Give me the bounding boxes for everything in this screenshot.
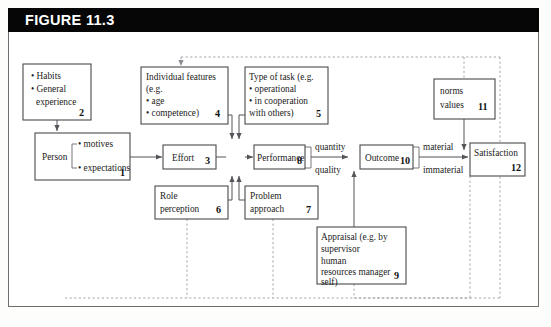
habits-line-3: experience (36, 97, 76, 107)
habits-line-1: • Habits (31, 71, 61, 81)
edge-individual-features-down (228, 115, 232, 139)
performance-number: 8 (297, 155, 302, 166)
person-number: 1 (120, 167, 125, 178)
individual-features-line-3: • age (146, 96, 164, 106)
individual-features-line-4: • competence) (146, 108, 199, 119)
node-problem-approach[interactable]: Problem approach 7 (245, 186, 318, 219)
appraisal-line-5: self) (321, 277, 338, 288)
node-satisfaction[interactable]: Satisfaction 12 (470, 143, 525, 176)
edge-role-perception-up (228, 176, 232, 200)
problem-approach-line-1: Problem (250, 191, 282, 201)
type-of-task-line-2: • operational (249, 84, 297, 94)
appraisal-line-2: supervisor (321, 244, 361, 254)
effort-number: 3 (205, 155, 210, 166)
satisfaction-number: 12 (511, 162, 521, 173)
norms-values-line-1: norms (440, 86, 464, 96)
habits-number: 2 (79, 107, 84, 118)
person-bullet-motives: • motives (78, 139, 113, 149)
label-material: material (423, 142, 454, 152)
node-outcome[interactable]: Outcome 10 (360, 145, 413, 169)
satisfaction-title: Satisfaction (474, 148, 518, 158)
norms-values-line-2: values (440, 100, 464, 110)
bracket-quantity-quality (305, 147, 311, 168)
node-role-perception[interactable]: Role perception 6 (155, 186, 228, 219)
edge-type-of-task-down (239, 115, 245, 139)
outcome-number: 10 (400, 155, 410, 166)
label-immaterial: immaterial (423, 165, 464, 175)
type-of-task-line-1: Type of task (e.g. (249, 72, 314, 83)
individual-features-line-1: Individual features (146, 72, 216, 82)
bracket-material-immaterial (413, 147, 419, 168)
appraisal-number: 9 (394, 270, 399, 281)
appraisal-line-3: human (321, 256, 347, 266)
node-norms-values-box[interactable] (434, 79, 495, 119)
node-person[interactable]: Person • motives • expectations 1 (35, 133, 130, 180)
type-of-task-line-3: • in cooperation (249, 96, 308, 106)
appraisal-line-4: resources manager (321, 267, 391, 277)
outcome-title: Outcome (365, 153, 399, 163)
appraisal-line-1: Appraisal (e.g. by (321, 232, 388, 243)
label-quality: quality (315, 165, 341, 175)
individual-features-line-2: (e.g. (146, 84, 163, 95)
effort-title: Effort (172, 153, 194, 163)
node-norms-values[interactable]: norms values 11 (434, 79, 495, 119)
motivation-performance-flow-diagram: • Habits • General experience 2 Person •… (0, 0, 551, 327)
figure-page: FIGURE 11.3 (0, 0, 551, 327)
problem-approach-number: 7 (306, 204, 311, 215)
type-of-task-line-4: with others) (249, 108, 294, 119)
individual-features-number: 4 (215, 108, 220, 119)
node-appraisal[interactable]: Appraisal (e.g. by supervisor human reso… (317, 227, 406, 288)
role-perception-line-2: perception (160, 204, 200, 214)
problem-approach-line-2: approach (250, 204, 284, 214)
habits-line-2: • General (31, 84, 66, 94)
node-type-of-task[interactable]: Type of task (e.g. • operational • in co… (245, 67, 328, 124)
person-title: Person (42, 152, 68, 162)
role-perception-line-1: Role (160, 191, 178, 201)
node-habits-general-experience[interactable]: • Habits • General experience 2 (23, 64, 91, 120)
label-quantity: quantity (315, 142, 346, 152)
type-of-task-number: 5 (316, 108, 321, 119)
node-performance[interactable]: Performance 8 (254, 145, 305, 169)
norms-values-number: 11 (478, 101, 488, 112)
role-perception-number: 6 (216, 204, 221, 215)
node-individual-features[interactable]: Individual features (e.g. • age • compet… (141, 67, 228, 124)
node-effort[interactable]: Effort 3 (163, 145, 216, 169)
